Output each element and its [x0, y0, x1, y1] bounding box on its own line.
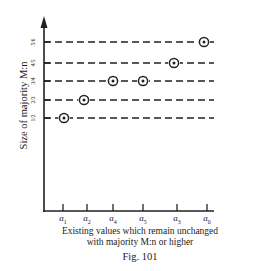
- y-level-label: 5/6: [30, 35, 36, 49]
- x-tick-label: a4: [105, 213, 121, 225]
- majority-level-lines: [44, 42, 214, 118]
- x-axis-label-line2: with majority M:n or higher: [60, 237, 220, 248]
- y-axis-arrow-icon: [41, 16, 48, 28]
- x-tick-label: a1: [55, 213, 71, 225]
- data-points: [58, 36, 210, 124]
- figure-caption: Fig. 101: [60, 251, 220, 262]
- x-axis-label-line1: Existing values which remain unchanged: [60, 226, 220, 237]
- x-axis-ticks: [63, 204, 207, 211]
- y-level-label: 4/5: [30, 56, 36, 70]
- x-tick-label: a2: [79, 213, 95, 225]
- x-axis-label: Existing values which remain unchanged w…: [60, 226, 220, 248]
- x-tick-label: a3: [169, 213, 185, 225]
- y-level-label: 2/3: [30, 93, 36, 107]
- x-tick-label: a5: [135, 213, 151, 225]
- x-tick-label: a0: [199, 213, 215, 225]
- y-axis-label: Size of majority M:n: [18, 51, 29, 161]
- y-level-label: 3/4: [30, 74, 36, 88]
- y-level-label: 1/2: [30, 111, 36, 125]
